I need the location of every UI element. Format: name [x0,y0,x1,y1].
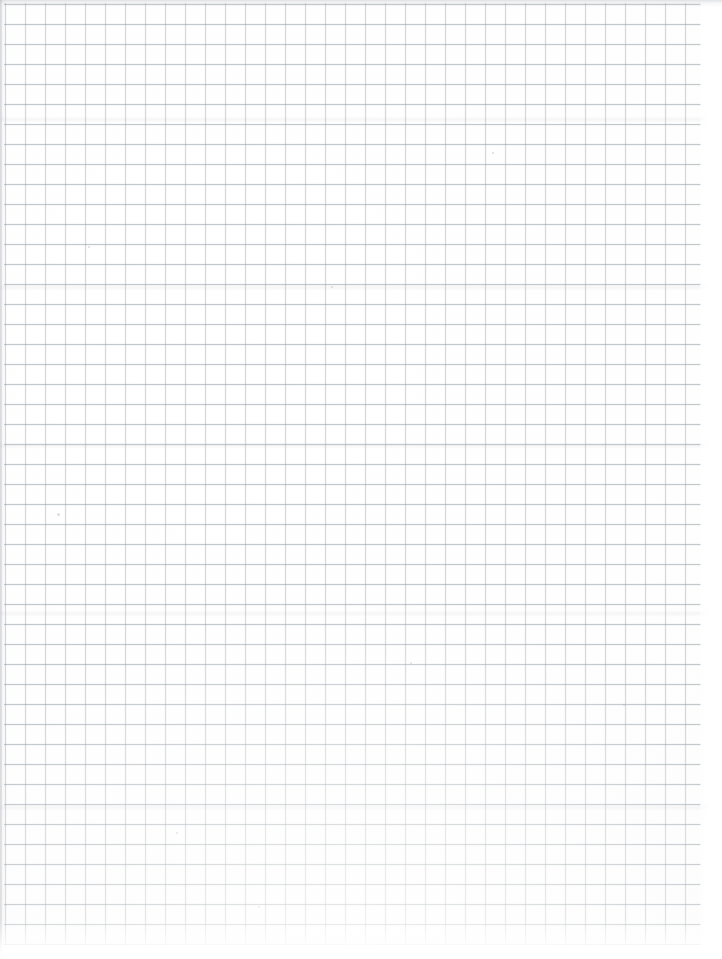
scan-vignette [0,0,722,959]
scanned-grid-paper-image: Blank sheet of scanned quadrille / graph… [0,0,722,959]
